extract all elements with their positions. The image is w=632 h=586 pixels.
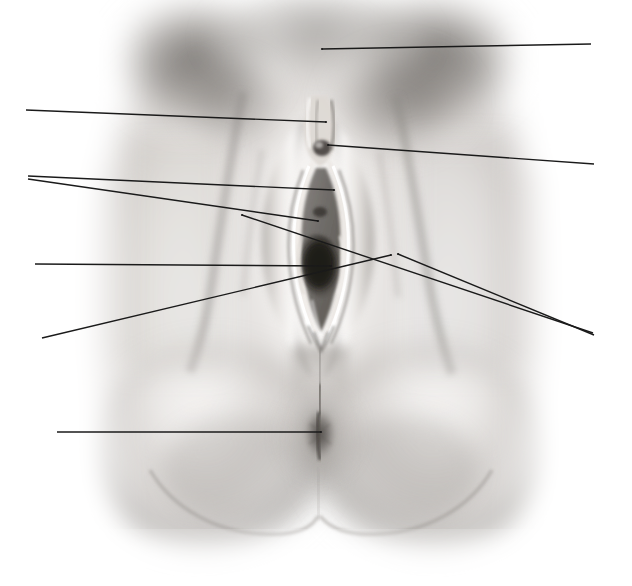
anchor-mons-pubis (321, 48, 323, 50)
anchor-urethral-meatus (241, 214, 243, 216)
anchor-labium-minus (317, 220, 319, 222)
figure-canvas (0, 0, 632, 586)
vignette-bottom (0, 548, 632, 586)
anchor-fourchette (390, 254, 392, 256)
anchor-anus (320, 431, 322, 433)
anatomical-figure: Grayscale anatomical photograph of the f… (0, 0, 632, 586)
anchor-hymenal-ring (397, 253, 399, 255)
anchor-prepuce (325, 121, 327, 123)
anchor-vaginal-orifice (330, 265, 332, 267)
anchor-labium-majus (333, 189, 335, 191)
vignette-right (530, 0, 632, 586)
vignette-left (0, 0, 108, 586)
film-grain-overlay (60, 0, 572, 560)
anchor-glans-clitoris (327, 144, 329, 146)
anatomical-photo-body (0, 0, 632, 586)
